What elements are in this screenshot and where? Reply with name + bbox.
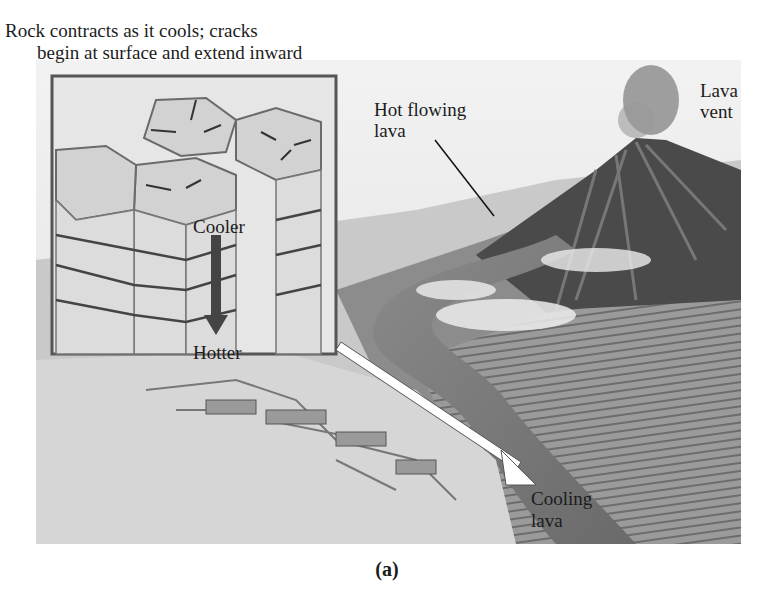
temperature-gradient-arrow [211,235,221,315]
cooler-label: Cooler [193,216,245,237]
top-note-line1: Rock contracts as it cools; cracks [5,20,258,41]
lava-vent-label-line1: Lava [700,80,738,101]
lava-vent-label-line2: vent [700,101,733,122]
hot-flowing-lava-label-line1: Hot flowing [374,99,466,120]
hotter-label: Hotter [193,342,242,363]
cooling-lava-label-line2: lava [531,510,563,531]
columnar-jointing-inset [52,76,336,354]
figure-caption: (a) [0,558,774,581]
top-note-line2: begin at surface and extend inward [37,42,302,63]
hot-flowing-lava-label-line2: lava [374,120,406,141]
cooling-lava-label-line1: Cooling [531,488,592,509]
